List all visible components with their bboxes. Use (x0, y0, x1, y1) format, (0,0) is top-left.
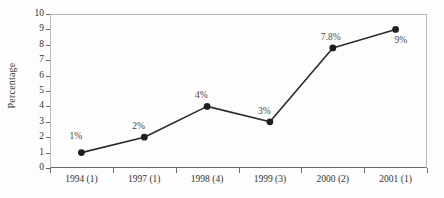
x-tick-mark (239, 168, 240, 173)
x-tick-mark (427, 168, 428, 173)
x-tick-label: 2000 (2) (301, 174, 364, 184)
series-line (81, 29, 395, 152)
x-tick-label: 1997 (1) (113, 174, 176, 184)
point-value-label: 4% (195, 90, 208, 100)
chart-figure: Percentage 012345678910 1994 (1)1997 (1)… (0, 0, 444, 198)
point-value-label: 7.8% (321, 32, 341, 42)
x-tick-mark (364, 168, 365, 173)
point-value-label: 3% (258, 106, 271, 116)
data-point-marker (392, 26, 399, 33)
x-tick-mark (50, 168, 51, 173)
point-value-label: 1% (69, 131, 82, 141)
x-tick-label: 2001 (1) (364, 174, 427, 184)
data-point-marker (329, 45, 336, 52)
x-tick-label: 1998 (4) (176, 174, 239, 184)
point-value-label: 9% (395, 35, 408, 45)
series-line-layer (0, 0, 444, 198)
x-tick-mark (113, 168, 114, 173)
x-tick-label: 1994 (1) (50, 174, 113, 184)
x-tick-mark (176, 168, 177, 173)
point-value-label: 2% (132, 121, 145, 131)
x-tick-label: 1999 (3) (239, 174, 302, 184)
data-point-marker (204, 103, 211, 110)
x-tick-mark (301, 168, 302, 173)
data-point-marker (267, 118, 274, 125)
series-markers (78, 26, 399, 156)
data-point-marker (141, 134, 148, 141)
data-point-marker (78, 149, 85, 156)
